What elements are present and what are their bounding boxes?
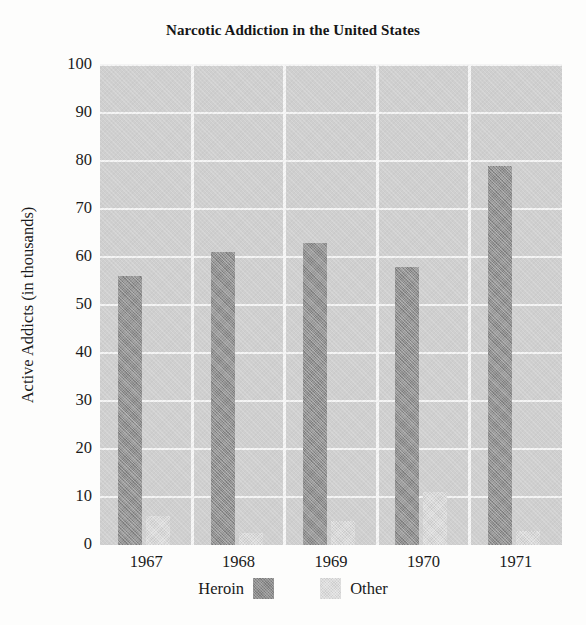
legend-swatch-other <box>320 578 341 599</box>
bar-heroin-1968 <box>211 252 235 545</box>
bar-other-1967 <box>146 516 170 545</box>
bar-other-1970 <box>423 492 447 545</box>
bar-other-1971 <box>516 531 540 545</box>
bar-heroin-1967 <box>118 276 142 545</box>
legend-item-other: Other <box>320 578 388 599</box>
y-tick-label: 40 <box>44 342 92 362</box>
gridline-vertical <box>283 65 286 545</box>
y-tick-label: 90 <box>44 102 92 122</box>
bar-other-1968 <box>239 533 263 545</box>
y-tick-label: 20 <box>44 438 92 458</box>
gridline-vertical <box>468 65 471 545</box>
bar-heroin-1971 <box>488 166 512 545</box>
gridline-horizontal <box>100 160 562 162</box>
bar-heroin-1969 <box>303 243 327 545</box>
y-tick-label: 80 <box>44 150 92 170</box>
y-tick-label: 70 <box>44 198 92 218</box>
y-tick-label: 30 <box>44 390 92 410</box>
x-tick-label: 1969 <box>286 552 376 572</box>
chart-legend: Heroin Other <box>0 578 586 599</box>
y-axis-label: Active Addicts (in thousands) <box>18 207 38 404</box>
y-tick-label: 0 <box>44 534 92 554</box>
y-axis-label-container: Active Addicts (in thousands) <box>14 60 42 550</box>
bar-other-1969 <box>331 521 355 545</box>
y-tick-label: 50 <box>44 294 92 314</box>
y-tick-label: 100 <box>44 54 92 74</box>
plot-area <box>100 65 562 545</box>
gridline-horizontal <box>100 64 562 66</box>
legend-swatch-heroin <box>253 578 274 599</box>
legend-item-heroin: Heroin <box>198 578 274 599</box>
x-tick-label: 1970 <box>378 552 468 572</box>
legend-label-other: Other <box>350 579 388 599</box>
x-tick-label: 1971 <box>471 552 561 572</box>
bar-heroin-1970 <box>395 267 419 545</box>
legend-label-heroin: Heroin <box>198 579 244 599</box>
x-tick-label: 1968 <box>194 552 284 572</box>
chart-figure: Narcotic Addiction in the United States … <box>0 0 586 625</box>
chart-title: Narcotic Addiction in the United States <box>0 22 586 39</box>
y-tick-label: 10 <box>44 486 92 506</box>
y-tick-label: 60 <box>44 246 92 266</box>
x-tick-label: 1967 <box>101 552 191 572</box>
gridline-vertical <box>376 65 379 545</box>
gridline-horizontal <box>100 112 562 114</box>
gridline-vertical <box>191 65 194 545</box>
